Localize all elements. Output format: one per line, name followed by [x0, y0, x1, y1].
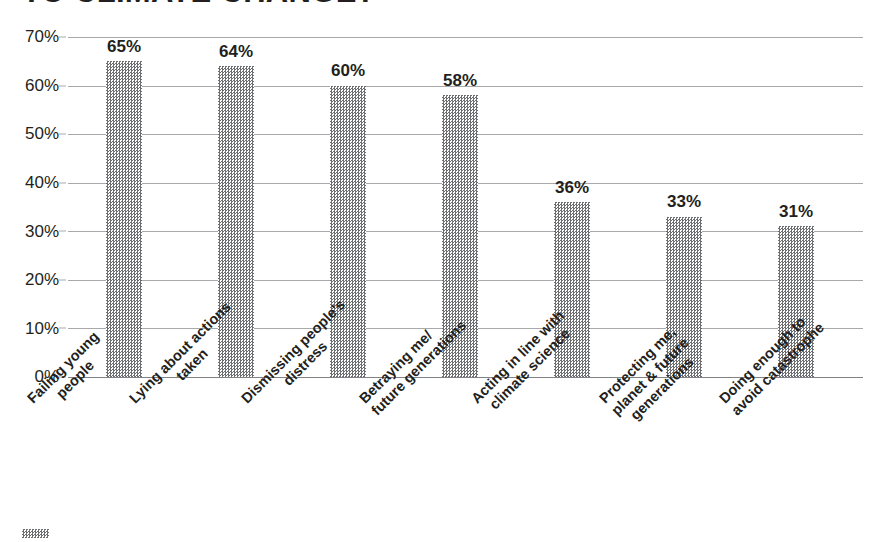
- bar-value-label: 64%: [206, 42, 266, 62]
- y-tick-label: 40%: [7, 173, 59, 193]
- bar-value-label: 65%: [94, 37, 154, 57]
- bar[interactable]: [106, 61, 142, 377]
- bar-value-label: 58%: [430, 71, 490, 91]
- tick-mark-70: [59, 37, 66, 38]
- y-tick-label: 30%: [7, 222, 59, 242]
- bar-value-label: 33%: [654, 192, 714, 212]
- y-tick-label: 50%: [7, 124, 59, 144]
- y-tick-label: 20%: [7, 270, 59, 290]
- chart-title: TO CLIMATE CHANGE?: [22, 0, 376, 10]
- bar-value-label: 31%: [766, 202, 826, 222]
- bar-value-label: 36%: [542, 178, 602, 198]
- tick-mark-30: [59, 231, 66, 232]
- y-tick-label: 70%: [7, 27, 59, 47]
- tick-mark-50: [59, 134, 66, 135]
- legend: [22, 526, 56, 540]
- gridline-70: [68, 37, 863, 38]
- y-tick-label: 10%: [7, 319, 59, 339]
- tick-mark-10: [59, 328, 66, 329]
- y-tick-label: 60%: [7, 76, 59, 96]
- tick-mark-40: [59, 182, 66, 183]
- bar-value-label: 60%: [318, 61, 378, 81]
- tick-mark-60: [59, 85, 66, 86]
- tick-mark-20: [59, 279, 66, 280]
- legend-swatch-icon: [22, 529, 49, 538]
- bar-chart: TO CLIMATE CHANGE? 70% 60% 50% 40% 30% 2…: [0, 0, 890, 542]
